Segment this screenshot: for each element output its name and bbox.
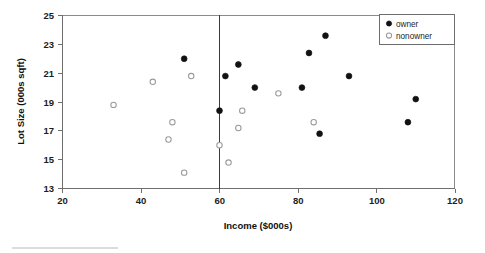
y-tick-label-15: 15 bbox=[43, 154, 54, 165]
data-point-nonowner bbox=[166, 137, 171, 142]
x-tick-label-120: 120 bbox=[447, 195, 463, 206]
data-point-nonowner bbox=[240, 108, 245, 113]
x-tick-label-20: 20 bbox=[57, 195, 68, 206]
data-point-owner bbox=[299, 85, 305, 91]
x-tick-label-100: 100 bbox=[369, 195, 385, 206]
data-point-nonowner bbox=[181, 170, 186, 175]
y-tick-label-19: 19 bbox=[43, 97, 54, 108]
data-point-owner bbox=[323, 33, 329, 39]
legend-label-owner: owner bbox=[396, 20, 419, 29]
y-tick-label-17: 17 bbox=[43, 125, 54, 136]
y-tick-label-21: 21 bbox=[43, 68, 54, 79]
data-point-nonowner bbox=[189, 73, 194, 78]
data-point-owner bbox=[181, 56, 187, 62]
data-point-owner bbox=[413, 96, 419, 102]
legend-label-nonowner: nonowner bbox=[396, 32, 432, 41]
data-point-owner bbox=[252, 85, 258, 91]
data-point-nonowner bbox=[236, 125, 241, 130]
legend-marker-owner-icon bbox=[386, 21, 391, 26]
data-point-owner bbox=[405, 119, 411, 125]
data-point-nonowner bbox=[276, 91, 281, 96]
y-tick-label-25: 25 bbox=[43, 10, 54, 21]
y-tick-label-13: 13 bbox=[43, 183, 54, 194]
data-point-nonowner bbox=[311, 119, 316, 124]
data-point-nonowner bbox=[170, 119, 175, 124]
x-tick-label-80: 80 bbox=[293, 195, 304, 206]
data-point-nonowner bbox=[150, 79, 155, 84]
data-point-owner bbox=[306, 50, 312, 56]
y-tick-label-23: 23 bbox=[43, 39, 54, 50]
scatter-chart-figure: 25 23 21 19 17 15 13 20 40 60 80 100 120… bbox=[0, 0, 485, 253]
x-tick-label-40: 40 bbox=[136, 195, 147, 206]
legend-marker-nonowner-icon bbox=[386, 33, 391, 38]
y-axis-title: Lot Size (000s sqft) bbox=[15, 58, 26, 145]
data-point-owner bbox=[217, 108, 223, 114]
data-point-owner bbox=[317, 131, 323, 137]
data-point-owner bbox=[346, 73, 352, 79]
chart-legend: owner nonowner bbox=[379, 15, 454, 45]
scatter-plot-svg: 25 23 21 19 17 15 13 20 40 60 80 100 120… bbox=[0, 0, 485, 253]
x-tick-label-60: 60 bbox=[214, 195, 225, 206]
data-point-nonowner bbox=[111, 102, 116, 107]
data-point-nonowner bbox=[226, 160, 231, 165]
x-axis-title: Income ($000s) bbox=[224, 220, 293, 231]
data-point-owner bbox=[235, 62, 241, 68]
data-point-nonowner bbox=[217, 143, 222, 148]
data-point-owner bbox=[222, 73, 228, 79]
